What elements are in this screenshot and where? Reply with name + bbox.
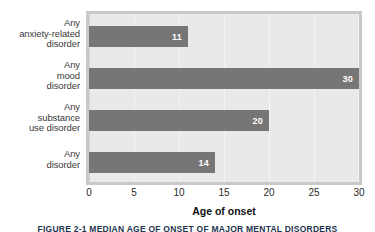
category-label-substance: Any substance use disorder — [0, 102, 80, 134]
x-tick-5: 5 — [131, 187, 137, 198]
figure-container: Any anxiety-related disorder Any mood di… — [0, 0, 375, 232]
category-label-line: Any — [0, 102, 80, 113]
category-label-line: disorder — [0, 81, 80, 92]
figure-caption: FIGURE 2-1 MEDIAN AGE OF ONSET OF MAJOR … — [0, 224, 375, 232]
category-label-line: disorder — [0, 39, 80, 50]
category-label-line: disorder — [0, 160, 80, 171]
bars-group: 11 30 20 14 — [89, 14, 359, 182]
bar-substance[interactable]: 20 — [89, 110, 269, 131]
bar-mood[interactable]: 30 — [89, 68, 359, 89]
category-label-any: Any disorder — [0, 149, 80, 170]
category-label-line: Any — [0, 18, 80, 29]
category-label-mood: Any mood disorder — [0, 60, 80, 92]
x-axis-ticks: 0 5 10 15 20 25 30 — [89, 187, 359, 201]
bar-value-label: 30 — [343, 74, 353, 84]
bar-any-disorder[interactable]: 14 — [89, 152, 215, 173]
bar-value-label: 11 — [172, 32, 182, 42]
x-tick-10: 10 — [173, 187, 184, 198]
category-label-line: Any — [0, 149, 80, 160]
category-label-line: Any — [0, 60, 80, 71]
x-tick-0: 0 — [86, 187, 92, 198]
bar-anxiety[interactable]: 11 — [89, 26, 188, 47]
x-tick-15: 15 — [218, 187, 229, 198]
x-tick-20: 20 — [263, 187, 274, 198]
x-tick-30: 30 — [353, 187, 364, 198]
x-tick-25: 25 — [308, 187, 319, 198]
bar-value-label: 20 — [253, 116, 263, 126]
category-label-line: use disorder — [0, 123, 80, 134]
category-label-anxiety: Any anxiety-related disorder — [0, 18, 80, 50]
category-axis-labels: Any anxiety-related disorder Any mood di… — [0, 13, 84, 185]
x-axis-title: Age of onset — [89, 205, 359, 217]
bar-value-label: 14 — [199, 158, 209, 168]
